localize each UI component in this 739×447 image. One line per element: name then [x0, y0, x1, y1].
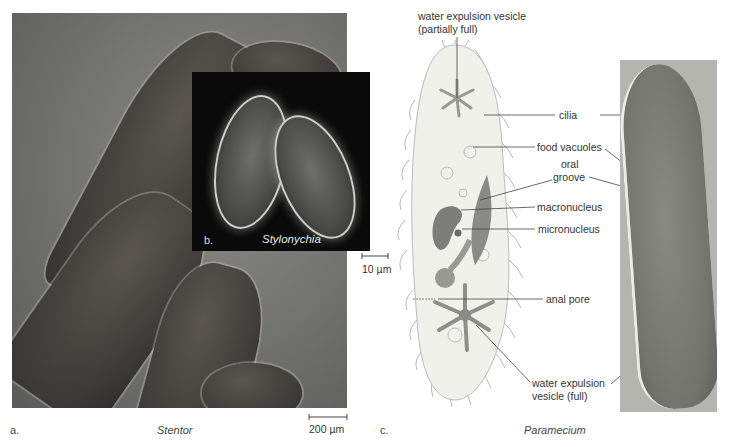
label-oral-groove-2: groove — [553, 171, 585, 183]
label-oral-groove-1: oral — [561, 158, 579, 170]
label-food-vacuoles: food vacuoles — [537, 141, 602, 153]
label-cilia: cilia — [559, 109, 577, 121]
label-water-expulsion-full-2: vesicle (full) — [532, 390, 587, 402]
paramecium-micrograph — [620, 60, 717, 412]
label-water-expulsion-partial-1: water expulsion vesicle — [418, 10, 526, 22]
paramecium-cell — [620, 62, 717, 412]
label-macronucleus: macronucleus — [537, 201, 602, 213]
label-water-expulsion-partial-2: (partially full) — [418, 23, 478, 35]
label-water-expulsion-full-1: water expulsion — [532, 377, 605, 389]
panel-c-caption: Paramecium — [524, 424, 586, 436]
label-anal-pore: anal pore — [546, 293, 590, 305]
panel-c-letter: c. — [380, 424, 389, 436]
label-micronucleus: micronucleus — [538, 223, 600, 235]
